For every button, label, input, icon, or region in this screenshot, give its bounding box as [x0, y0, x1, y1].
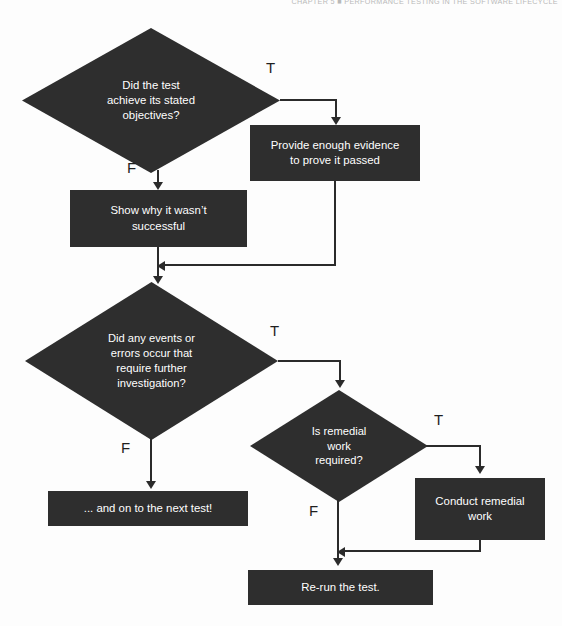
- process-rerun-test-label: Re-run the test.: [293, 580, 388, 595]
- arrow-into-conduct-remedial: [475, 466, 485, 474]
- edge-d2-false-vertical: [150, 437, 152, 483]
- edge-d3-true-vertical: [479, 445, 481, 467]
- arrow-into-provide-evidence: [331, 117, 341, 125]
- arrow-into-next-test: [146, 481, 156, 489]
- process-show-why-failed-label: Show why it wasn’t successful: [102, 203, 214, 233]
- decision-test-objectives-label: Did the test achieve its stated objectiv…: [101, 78, 201, 123]
- arrow-into-decision-remedial: [335, 380, 345, 388]
- edge-d2-true-horizontal: [278, 360, 341, 362]
- branch-label-d2-true: T: [270, 323, 279, 338]
- decision-events-errors-label: Did any events or errors occur that requ…: [102, 331, 201, 390]
- process-next-test-label: ... and on to the next test!: [76, 501, 221, 516]
- decision-events-errors[interactable]: Did any events or errors occur that requ…: [25, 282, 278, 440]
- edge-b3-merge-horizontal: [344, 550, 481, 552]
- branch-label-d3-false: F: [309, 503, 318, 518]
- branch-label-d1-true: T: [266, 60, 275, 75]
- process-next-test[interactable]: ... and on to the next test!: [48, 491, 248, 526]
- decision-remedial-work[interactable]: Is remedial work required?: [250, 390, 428, 502]
- process-conduct-remedial-work-label: Conduct remedial work: [427, 494, 532, 524]
- branch-label-d2-false: F: [121, 440, 130, 455]
- edge-d1-true-horizontal: [280, 99, 337, 101]
- edge-d1-true-vertical: [335, 99, 337, 119]
- process-show-why-failed[interactable]: Show why it wasn’t successful: [70, 190, 247, 247]
- flowchart-page: CHAPTER 5 ■ PERFORMANCE TESTING IN THE S…: [0, 0, 562, 626]
- edge-d3-true-horizontal: [426, 445, 481, 447]
- process-provide-evidence[interactable]: Provide enough evidence to prove it pass…: [250, 125, 420, 181]
- running-head: CHAPTER 5 ■ PERFORMANCE TESTING IN THE S…: [0, 0, 562, 6]
- arrow-merge-into-rerun-spine: [337, 547, 345, 557]
- decision-test-objectives[interactable]: Did the test achieve its stated objectiv…: [22, 28, 280, 173]
- arrow-into-rerun-test: [333, 558, 343, 566]
- arrow-into-show-why: [153, 182, 163, 190]
- process-provide-evidence-label: Provide enough evidence to prove it pass…: [263, 138, 408, 168]
- process-conduct-remedial-work[interactable]: Conduct remedial work: [415, 478, 545, 540]
- edge-d2-true-vertical: [339, 360, 341, 382]
- branch-label-d1-false: F: [127, 160, 136, 175]
- decision-remedial-work-label: Is remedial work required?: [306, 424, 373, 468]
- branch-label-d3-true: T: [434, 412, 443, 427]
- process-rerun-test[interactable]: Re-run the test.: [248, 570, 433, 605]
- edge-b1-down: [334, 181, 336, 266]
- edge-b1-merge-horizontal: [164, 264, 336, 266]
